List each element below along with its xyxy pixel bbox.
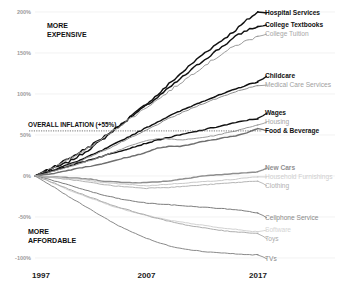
- x-axis-tick-labels: 199720072017: [32, 271, 267, 280]
- y-axis-tick-label: 0%: [23, 173, 31, 179]
- series-label-cellphone-service: Cellphone Service: [265, 214, 319, 222]
- series-label-new-cars: New Cars: [265, 164, 295, 171]
- series-label-wages: Wages: [265, 109, 286, 117]
- y-axis-tick-label: 50%: [20, 132, 31, 138]
- y-axis-tick-labels: 200%150%100%50%0%-50%-100%: [15, 9, 31, 261]
- series-line-food-beverage: [35, 129, 258, 176]
- series-label-college-textbooks: College Textbooks: [265, 21, 323, 29]
- series-label-medical-care-services: Medical Care Services: [265, 81, 332, 88]
- series-label-childcare: Childcare: [265, 72, 295, 79]
- gridlines: [35, 12, 335, 258]
- annotation-overall-inflation: OVERALL INFLATION (+55%): [28, 121, 116, 129]
- series-line-housing: [35, 125, 258, 176]
- y-axis-tick-label: 200%: [17, 9, 31, 15]
- series-label-software: Software: [265, 226, 291, 233]
- x-axis-tick-label: 2017: [249, 271, 267, 280]
- annotation-more-affordable: AFFORDABLE: [28, 237, 77, 244]
- series-line-college-tuition: [35, 36, 258, 176]
- series-label-food-beverage: Food & Beverage: [265, 127, 320, 135]
- annotation-more-affordable: MORE: [28, 228, 49, 235]
- series-label-college-tuition: College Tuition: [265, 30, 309, 38]
- series-label-hospital-services: Hospital Services: [265, 9, 320, 17]
- chart-canvas: 200%150%100%50%0%-50%-100% 199720072017 …: [0, 0, 339, 286]
- series-label-clothing: Clothing: [265, 182, 290, 190]
- series-label-housing: Housing: [265, 118, 290, 126]
- y-axis-tick-label: 100%: [17, 91, 31, 97]
- series-lines: [35, 12, 258, 255]
- x-axis-tick-label: 2007: [138, 271, 156, 280]
- y-axis-tick-label: -50%: [18, 214, 31, 220]
- series-line-new-cars: [35, 172, 258, 183]
- series-label-tvs: TVs: [265, 255, 277, 262]
- chart-annotations: MOREEXPENSIVEMOREAFFORDABLEOVERALL INFLA…: [28, 22, 116, 244]
- y-axis-tick-label: 150%: [17, 50, 31, 56]
- series-label-toys: Toys: [265, 235, 279, 243]
- series-line-college-textbooks: [35, 26, 258, 176]
- annotation-more-expensive: EXPENSIVE: [47, 31, 87, 38]
- annotation-more-expensive: MORE: [47, 22, 68, 29]
- series-label-household-furnishings: Household Furnishings: [265, 173, 333, 181]
- price-changes-chart: 200%150%100%50%0%-50%-100% 199720072017 …: [0, 0, 339, 286]
- x-axis-tick-label: 1997: [32, 271, 50, 280]
- series-line-cellphone-service: [35, 176, 258, 213]
- y-axis-tick-label: -100%: [15, 255, 31, 261]
